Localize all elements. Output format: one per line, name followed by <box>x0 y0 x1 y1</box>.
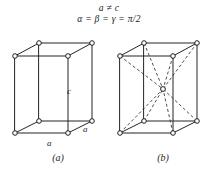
cell-a-node-back-top-left <box>37 41 42 46</box>
cell-b-depth-edge-bottom-right <box>173 121 197 133</box>
cell-a-node-back-top-right <box>90 41 95 46</box>
cell-a-depth-edge-bottom-left <box>15 121 39 133</box>
tetragonal-unit-cell-figure: a ≠ c α = β = γ = π/2 <box>0 0 218 178</box>
cell-a-node-front-top-right <box>66 54 71 59</box>
cell-b-diagonal-front-bottom-right <box>163 89 173 133</box>
cell-b-depth-edge-top-left <box>120 43 144 56</box>
cell-a-depth-edge-bottom-right <box>68 121 92 133</box>
cell-b-node-front-top-left <box>118 54 123 59</box>
cell-a-node-front-top-left <box>13 54 18 59</box>
simple-tetragonal-cell <box>13 41 95 136</box>
subfigure-caption-b: (b) <box>143 152 183 163</box>
subfigure-caption-a: (a) <box>38 152 78 163</box>
cell-a-back-face-edges <box>39 43 92 121</box>
cell-b-node-front-top-right <box>171 54 176 59</box>
unit-cell-drawings <box>0 0 218 178</box>
cell-b-diagonal-front-top-left <box>120 56 163 89</box>
cell-b-depth-edge-bottom-left <box>120 121 144 133</box>
cell-a-node-back-bottom-right <box>90 119 95 124</box>
cell-b-node-body-center <box>161 87 166 92</box>
axis-length-label-c: c <box>67 86 71 96</box>
cell-a-node-front-bottom-left <box>13 131 18 136</box>
cell-b-node-back-top-left <box>142 41 147 46</box>
cell-b-node-back-bottom-left <box>142 119 147 124</box>
body-centered-tetragonal-cell <box>118 41 200 136</box>
cell-a-node-front-bottom-right <box>66 131 71 136</box>
axis-length-label-a-side: a <box>83 124 88 134</box>
axis-length-label-a-front: a <box>47 138 52 148</box>
cell-b-back-face-edges <box>144 43 197 121</box>
cell-a-depth-edge-top-right <box>68 43 92 56</box>
cell-a-depth-edge-top-left <box>15 43 39 56</box>
cell-b-diagonal-back-bottom-right <box>163 89 197 121</box>
cell-b-node-back-bottom-right <box>195 119 200 124</box>
cell-b-diagonal-front-bottom-left <box>120 89 163 133</box>
cell-b-depth-edge-top-right <box>173 43 197 56</box>
cell-b-diagonal-back-top-left <box>144 43 163 89</box>
cell-b-diagonal-front-top-right <box>163 56 173 89</box>
cell-b-node-back-top-right <box>195 41 200 46</box>
cell-b-diagonal-back-top-right <box>163 43 197 89</box>
cell-b-node-front-bottom-left <box>118 131 123 136</box>
cell-b-node-front-bottom-right <box>171 131 176 136</box>
cell-a-node-back-bottom-left <box>37 119 42 124</box>
